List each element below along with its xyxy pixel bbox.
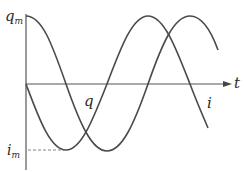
i-curve-label: i: [207, 96, 212, 111]
plot-canvas: [0, 0, 244, 172]
q-curve-label: q: [84, 94, 94, 109]
lc-oscillation-diagram: qm im q i t: [0, 0, 244, 172]
i-curve: [26, 16, 208, 150]
time-axis-arrow-icon: [223, 81, 232, 87]
q-max-label: qm: [5, 9, 23, 26]
t-axis-label: t: [234, 76, 240, 91]
i-max-label: im: [7, 143, 20, 160]
